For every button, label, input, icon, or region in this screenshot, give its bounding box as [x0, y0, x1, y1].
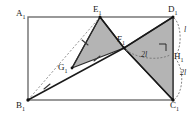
vertex-label-A1: A1: [16, 9, 26, 20]
figure-canvas: [0, 0, 196, 117]
vertex-label-C1-subscript: 1: [176, 106, 179, 112]
vertex-dot-G1: [71, 67, 74, 70]
shaded-triangle-F1D1C1: [124, 17, 173, 100]
length-label-F1-H1: 2l: [141, 51, 147, 59]
vertex-dot-E1: [99, 16, 102, 19]
length-label-D1-H1: l: [184, 26, 186, 34]
vertex-label-C1: C1: [170, 101, 179, 112]
vertex-label-B1-subscript: 1: [22, 106, 25, 112]
vertex-label-E1: E1: [93, 5, 102, 16]
vertex-label-A1-subscript: 1: [23, 14, 26, 20]
vertex-label-H1: H1: [174, 52, 184, 63]
geometry-figure: A1 B1 C1 D1 E1 F1 G1 H1 l 2l 2l: [0, 0, 196, 117]
length-label-H1-C1: 2l: [180, 69, 186, 77]
vertex-label-F1: F1: [117, 35, 125, 46]
vertex-label-H1-subscript: 1: [181, 57, 184, 63]
vertex-label-D1: D1: [168, 5, 178, 16]
vertex-label-G1-subscript: 1: [65, 68, 68, 74]
vertex-dot-B1: [26, 98, 29, 101]
vertex-label-F1-subscript: 1: [122, 40, 125, 46]
vertex-dot-F1: [123, 47, 126, 50]
vertex-label-B1: B1: [16, 101, 25, 112]
vertex-label-D1-subscript: 1: [175, 10, 178, 16]
vertex-label-G1: G1: [58, 63, 68, 74]
vertex-label-E1-subscript: 1: [99, 10, 102, 16]
measure-arc-H1-C1: [175, 58, 182, 99]
